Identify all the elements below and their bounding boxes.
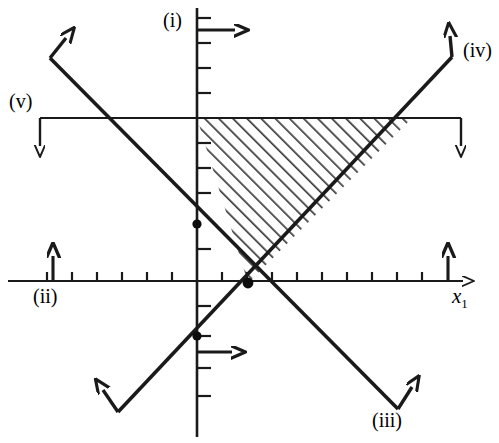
constraint-iii-arrow-lower-right xyxy=(398,387,412,409)
vertex-point-intersection xyxy=(243,278,254,289)
label-constraint-i: (i) xyxy=(163,10,182,30)
shaded-feasible-region xyxy=(197,118,412,283)
plot-canvas xyxy=(0,0,499,443)
constraint-iv-arrow-upper-right xyxy=(450,36,452,57)
constraint-descending-arrow-upper-left xyxy=(50,38,66,58)
label-constraint-iii: (iii) xyxy=(372,410,402,430)
x1-axis-label: x1 xyxy=(452,286,468,310)
inequality-plot-figure: (i) (ii) (iii) (iv) (v) x1 xyxy=(0,0,499,443)
x1-axis-label-text: x xyxy=(452,284,461,308)
label-constraint-iv: (iv) xyxy=(463,40,492,60)
label-constraint-ii: (ii) xyxy=(33,286,57,306)
constraint-iii-arrow-lower-left xyxy=(103,390,118,412)
label-constraint-v: (v) xyxy=(9,91,32,111)
vertex-point-upper xyxy=(192,219,201,228)
x1-axis-label-subscript: 1 xyxy=(461,296,468,311)
x-axis-ticks xyxy=(47,272,422,281)
vertex-point-lower xyxy=(192,331,201,340)
